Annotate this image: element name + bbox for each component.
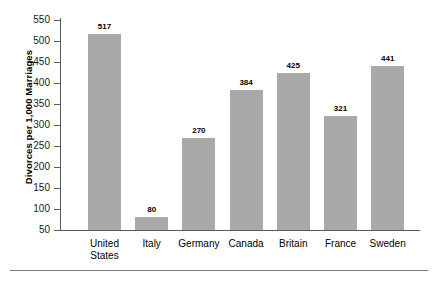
x-axis-line	[60, 230, 420, 231]
bar-value-label: 321	[314, 105, 367, 113]
bar-value-label: 441	[361, 55, 414, 63]
y-axis-tick	[54, 230, 60, 231]
bottom-divider-rule	[10, 270, 428, 271]
x-axis-category-label: Sweden	[358, 238, 417, 250]
bar-chart-figure: Divorces per 1,000 Marriages 50100150200…	[0, 0, 436, 282]
bar-value-label: 425	[267, 62, 320, 70]
bar[interactable]	[182, 138, 215, 230]
y-axis-tick-label: 250	[10, 141, 50, 151]
bar[interactable]	[230, 90, 263, 230]
y-axis-tick-label: 550	[10, 15, 50, 25]
y-axis-tick-label: 400	[10, 78, 50, 88]
y-axis-tick-label: 350	[10, 99, 50, 109]
bar[interactable]	[88, 34, 121, 230]
y-axis-tick-label: 100	[10, 204, 50, 214]
y-axis-tick-label: 450	[10, 57, 50, 67]
y-axis-tick-label: 500	[10, 36, 50, 46]
x-axis-category-label-line: States	[75, 250, 134, 262]
bar-value-label: 384	[220, 79, 273, 87]
y-axis-tick-label: 300	[10, 120, 50, 130]
bar-value-label: 517	[78, 23, 131, 31]
bar-value-label: 270	[172, 127, 225, 135]
y-axis-tick-label: 150	[10, 183, 50, 193]
bar[interactable]	[277, 73, 310, 231]
bar[interactable]	[371, 66, 404, 230]
x-axis-category-label-line: Sweden	[358, 238, 417, 250]
y-axis-tick-label: 50	[10, 225, 50, 235]
plot-area: 51780270384425321441	[60, 20, 428, 230]
y-axis-tick-label: 200	[10, 162, 50, 172]
bar[interactable]	[135, 217, 168, 230]
bar[interactable]	[324, 116, 357, 230]
bar-value-label: 80	[125, 206, 178, 214]
